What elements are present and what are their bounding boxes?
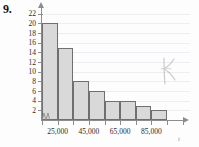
- x-axis-tick: [120, 121, 121, 125]
- x-axis-line: [41, 120, 184, 121]
- histogram-bar: [73, 81, 89, 120]
- histogram-figure: 9. 246810121416182022 25,00045,00065,000…: [0, 0, 199, 147]
- handwritten-pencil-annotation: [158, 56, 182, 86]
- y-axis-tick-label: 22: [20, 10, 36, 17]
- gridline: [42, 33, 190, 34]
- y-axis-tick-label-text: 2: [20, 107, 36, 114]
- y-axis-arrow-icon: [38, 2, 44, 8]
- y-axis-tick-label: 10: [20, 68, 36, 75]
- y-axis-tick-label-text: 4: [20, 97, 36, 104]
- y-axis-tick: [38, 14, 43, 15]
- histogram-bar: [58, 48, 74, 120]
- y-axis-tick-label-text: 12: [20, 59, 36, 66]
- gridline: [42, 43, 190, 44]
- y-axis-tick-label: 14: [20, 49, 36, 56]
- x-axis-tick-label: 45,000: [73, 127, 105, 136]
- y-axis-tick-label: 2: [20, 107, 36, 114]
- x-axis-tick: [89, 121, 90, 125]
- x-axis-arrow-icon: [183, 117, 189, 123]
- y-axis-tick-label: 4: [20, 97, 36, 104]
- plot-area: 246810121416182022 25,00045,00065,00085,…: [0, 0, 199, 147]
- gridline: [42, 14, 190, 15]
- x-axis-tick: [105, 121, 106, 125]
- histogram-bar: [151, 110, 167, 120]
- histogram-bar: [89, 91, 105, 120]
- y-axis-tick-label-text: 20: [20, 20, 36, 27]
- axis-break-icon: [41, 110, 55, 122]
- x-axis-tick: [136, 121, 137, 125]
- y-axis-tick-label-text: 6: [20, 88, 36, 95]
- histogram-bar: [136, 106, 152, 120]
- y-axis-tick-label-text: 8: [20, 78, 36, 85]
- histogram-bar: [120, 101, 136, 120]
- y-axis-tick-label-text: 10: [20, 68, 36, 75]
- histogram-bar: [42, 23, 58, 120]
- x-axis-tick: [167, 121, 168, 125]
- gridline: [42, 23, 190, 24]
- x-axis-tick: [151, 121, 152, 125]
- y-axis-tick-label: 8: [20, 78, 36, 85]
- y-axis-tick-label-text: 18: [20, 30, 36, 37]
- y-axis-tick-label: 6: [20, 88, 36, 95]
- x-axis-variable-label: t: [178, 135, 180, 143]
- x-axis-tick-label: 25,000: [42, 127, 74, 136]
- y-axis-tick-label: 12: [20, 59, 36, 66]
- x-axis-tick: [183, 121, 184, 125]
- y-axis-tick-label-text: 22: [20, 10, 36, 17]
- x-axis-tick: [73, 121, 74, 125]
- y-axis-tick-label: 18: [20, 30, 36, 37]
- x-axis-tick: [58, 121, 59, 125]
- x-axis-tick-label: 85,000: [135, 127, 167, 136]
- x-axis-tick-label: 65,000: [104, 127, 136, 136]
- histogram-bar: [105, 101, 121, 120]
- y-axis-tick-label-text: 16: [20, 39, 36, 46]
- y-axis-tick-label: 16: [20, 39, 36, 46]
- y-axis-tick-label: 20: [20, 20, 36, 27]
- y-axis-tick-label-text: 14: [20, 49, 36, 56]
